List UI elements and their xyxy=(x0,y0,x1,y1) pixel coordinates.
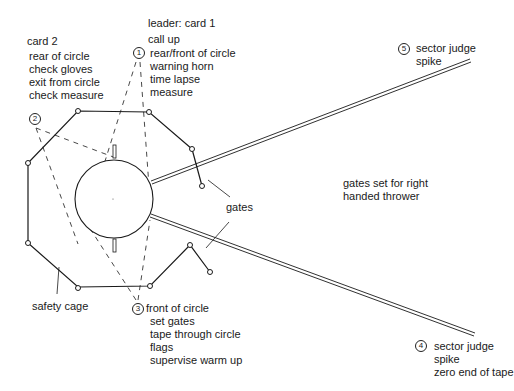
duty: rear/front of circle xyxy=(150,47,236,60)
duty: spike xyxy=(434,353,514,366)
official-4-heading: sector judge xyxy=(434,340,494,353)
official-4-number-badge: 4 xyxy=(415,340,427,352)
duty: exit from circle xyxy=(29,76,104,89)
gates-label: gates xyxy=(226,201,253,214)
duty: time lapse xyxy=(150,73,236,86)
duty: supervise warm up xyxy=(150,354,242,367)
gates-note-line: handed thrower xyxy=(343,190,428,203)
duty: warning horn xyxy=(150,60,236,73)
official-2-heading: card 2 xyxy=(27,35,58,48)
throwing-circle xyxy=(75,145,153,252)
duty: tape through circle xyxy=(150,328,242,341)
duty: measure xyxy=(150,86,236,99)
official-3-heading: front of circle xyxy=(146,302,209,315)
gates-note-line: gates set for right xyxy=(343,177,428,190)
official-3-duties: set gates tape through circle flags supe… xyxy=(150,315,242,367)
gates-note: gates set for right handed thrower xyxy=(343,177,428,203)
safety-cage-label: safety cage xyxy=(32,300,88,313)
duty: spike xyxy=(416,55,442,68)
duty: rear of circle xyxy=(29,50,104,63)
official-2-duties: rear of circle check gloves exit from ci… xyxy=(29,50,104,102)
official-5-heading: sector judge xyxy=(416,42,476,55)
official-1-number-badge: 1 xyxy=(133,47,145,59)
official-2-number-badge: 2 xyxy=(29,113,41,125)
duty: flags xyxy=(150,341,242,354)
official-4-duties: spike zero end of tape xyxy=(434,353,514,379)
official-5-duties: spike xyxy=(416,55,442,68)
duty: check gloves xyxy=(29,63,104,76)
official-1-subheading: call up xyxy=(148,33,180,46)
official-3-number-badge: 3 xyxy=(132,303,144,315)
official-1-heading: leader: card 1 xyxy=(148,17,215,30)
official-5-number-badge: 5 xyxy=(398,43,410,55)
duty: check measure xyxy=(29,89,104,102)
duty: set gates xyxy=(150,315,242,328)
duty: zero end of tape xyxy=(434,366,514,379)
official-1-duties: rear/front of circle warning horn time l… xyxy=(150,47,236,99)
